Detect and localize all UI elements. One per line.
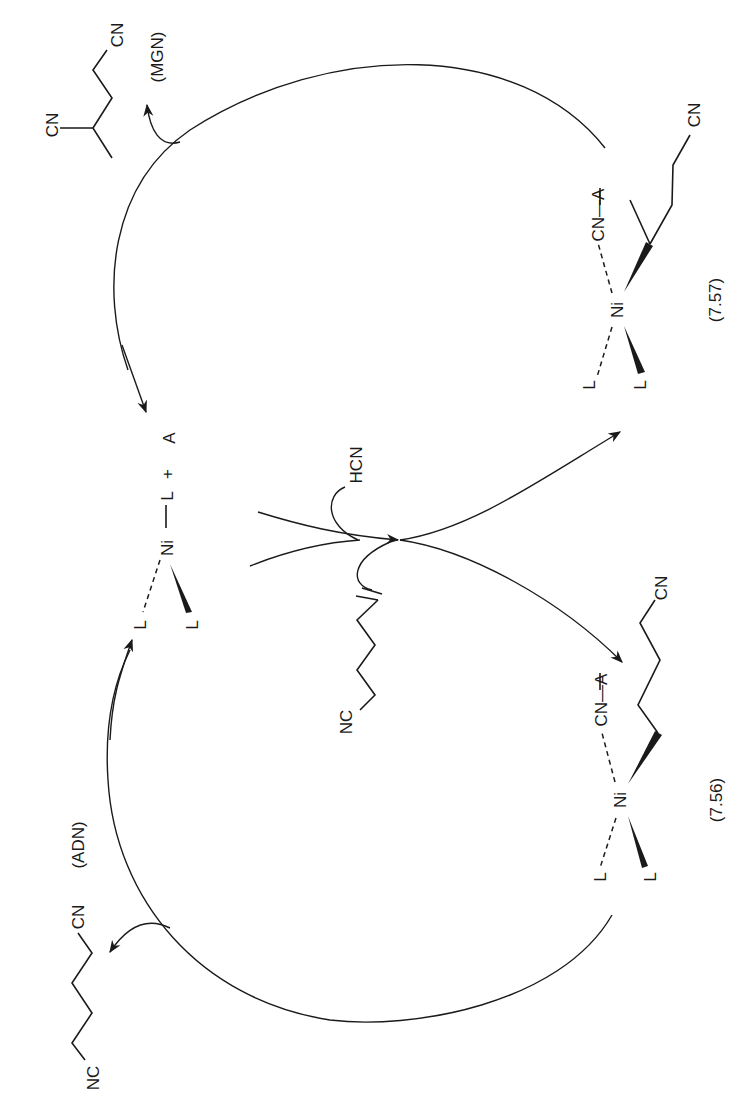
complex-756-cn: CN—A bbox=[592, 673, 611, 727]
complex-756-l-dashed: L bbox=[591, 872, 610, 881]
catalytic-cycle-diagram: Ni L + A L L HCN NC Ni CN—A CN L L (7.56… bbox=[0, 0, 750, 1107]
catalyst-plus: + bbox=[158, 469, 177, 479]
complex-756-chain-cn: CN bbox=[652, 576, 671, 601]
adn-label: (ADN) bbox=[69, 821, 88, 868]
convergence-arrows bbox=[250, 432, 622, 662]
complex-757-l-dashed: L bbox=[580, 380, 599, 389]
catalyst-l-wedge: L bbox=[183, 620, 202, 629]
complex-757-label: (7.57) bbox=[706, 278, 725, 322]
complex-757-chain-cn: CN bbox=[685, 103, 704, 128]
product-mgn: CN CN (MGN) bbox=[43, 23, 167, 158]
complex-757-l-wedge: L bbox=[631, 380, 650, 389]
complex-7-57: Ni CN—A CN L L (7.57) bbox=[580, 103, 725, 390]
alkene-nc: NC bbox=[337, 710, 356, 735]
reagent-hcn: HCN bbox=[347, 447, 366, 484]
mgn-label: (MGN) bbox=[148, 32, 167, 83]
mgn-cn-branch: CN bbox=[43, 113, 62, 138]
complex-7-56: Ni CN—A CN L L (7.56) bbox=[591, 576, 726, 882]
catalyst-additive: A bbox=[160, 432, 179, 444]
top-cycle-arc bbox=[114, 65, 605, 412]
bottom-cycle-arc bbox=[107, 640, 612, 1022]
complex-757-cn: CN—A bbox=[589, 188, 608, 242]
catalyst-l-dashed: L bbox=[131, 620, 150, 629]
complex-756-label: (7.56) bbox=[707, 778, 726, 822]
complex-756-l-wedge: L bbox=[641, 872, 660, 881]
catalyst-ni: Ni bbox=[158, 540, 177, 556]
adn-nc: NC bbox=[84, 1066, 103, 1091]
complex-756-ni: Ni bbox=[611, 792, 630, 808]
alkene-reagent: NC bbox=[337, 588, 382, 734]
mgn-cn-end: CN bbox=[108, 23, 127, 48]
catalyst-l-top: L bbox=[158, 491, 177, 500]
complex-757-ni: Ni bbox=[608, 302, 627, 318]
mgn-release-arrow bbox=[147, 105, 180, 143]
adn-cn: CN bbox=[69, 905, 88, 930]
product-adn: NC CN (ADN) bbox=[69, 821, 103, 1090]
adn-release-arrow bbox=[110, 923, 170, 952]
catalyst-complex: Ni L + A L L bbox=[131, 432, 202, 630]
